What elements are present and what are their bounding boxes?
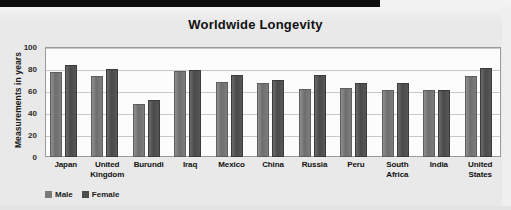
bar-group bbox=[211, 47, 252, 157]
y-tick-label-0: 0 bbox=[33, 153, 37, 162]
bottom-edge-margin bbox=[0, 206, 511, 210]
y-tick-label-80: 80 bbox=[28, 65, 37, 74]
bar-group bbox=[86, 47, 127, 157]
legend-swatch-icon bbox=[82, 191, 89, 198]
chart-legend: MaleFemale bbox=[45, 190, 119, 199]
chart-title: Worldwide Longevity bbox=[0, 17, 511, 32]
bar-female bbox=[189, 70, 201, 157]
bar-female bbox=[148, 100, 160, 157]
bar-group bbox=[418, 47, 459, 157]
bar-male bbox=[91, 76, 103, 157]
x-label-south-africa: SouthAfrica bbox=[377, 160, 418, 179]
bar-group bbox=[45, 47, 86, 157]
bar-female bbox=[397, 83, 409, 157]
top-banner-filler bbox=[380, 0, 511, 7]
x-label-india: India bbox=[418, 160, 459, 170]
x-label-burundi: Burundi bbox=[128, 160, 169, 170]
bar-female bbox=[480, 68, 492, 157]
y-tick-label-60: 60 bbox=[28, 87, 37, 96]
bar-female bbox=[314, 75, 326, 158]
chart-screenshot: Worldwide Longevity Measurements in year… bbox=[0, 0, 511, 210]
bar-group bbox=[335, 47, 376, 157]
legend-label: Female bbox=[92, 190, 120, 199]
x-label-mexico: Mexico bbox=[211, 160, 252, 170]
legend-swatch-icon bbox=[45, 191, 52, 198]
x-label-russia: Russia bbox=[294, 160, 335, 170]
bar-male bbox=[423, 90, 435, 157]
y-axis-tick-labels: 020406080100 bbox=[0, 47, 41, 157]
bar-group bbox=[169, 47, 210, 157]
bar-male bbox=[465, 76, 477, 157]
bar-male bbox=[340, 88, 352, 157]
legend-label: Male bbox=[55, 190, 73, 199]
bars-layer bbox=[45, 47, 501, 157]
x-label-china: China bbox=[252, 160, 293, 170]
y-tick-label-20: 20 bbox=[28, 131, 37, 140]
bar-female bbox=[65, 65, 77, 157]
bar-female bbox=[438, 90, 450, 157]
bar-male bbox=[299, 89, 311, 157]
bar-group bbox=[252, 47, 293, 157]
y-tick-label-100: 100 bbox=[24, 43, 37, 52]
bar-male bbox=[174, 71, 186, 157]
top-black-banner bbox=[0, 0, 380, 7]
bar-female bbox=[106, 69, 118, 157]
x-label-japan: Japan bbox=[45, 160, 86, 170]
x-axis-category-labels: JapanUnitedKingdomBurundiIraqMexicoChina… bbox=[45, 160, 501, 188]
bar-male bbox=[133, 104, 145, 157]
right-edge-margin bbox=[502, 7, 511, 210]
y-tick-label-40: 40 bbox=[28, 109, 37, 118]
bar-female bbox=[231, 75, 243, 158]
bar-group bbox=[294, 47, 335, 157]
bar-group bbox=[460, 47, 501, 157]
bar-female bbox=[355, 83, 367, 157]
bar-group bbox=[377, 47, 418, 157]
bar-male bbox=[257, 83, 269, 157]
bar-group bbox=[128, 47, 169, 157]
legend-item-female: Female bbox=[82, 190, 120, 199]
x-label-united-states: UnitedStates bbox=[460, 160, 501, 179]
bar-female bbox=[272, 80, 284, 157]
x-label-united-kingdom: UnitedKingdom bbox=[86, 160, 127, 179]
x-label-iraq: Iraq bbox=[169, 160, 210, 170]
legend-item-male: Male bbox=[45, 190, 73, 199]
bar-male bbox=[382, 90, 394, 157]
x-label-peru: Peru bbox=[335, 160, 376, 170]
bar-male bbox=[50, 72, 62, 157]
bar-male bbox=[216, 82, 228, 157]
